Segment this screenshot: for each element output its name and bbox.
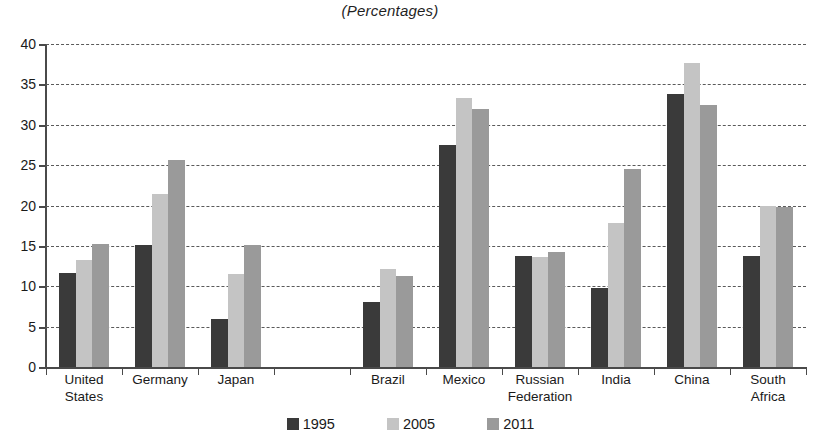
bar [152, 194, 169, 367]
bar [168, 160, 185, 367]
gridline-40 [46, 44, 806, 45]
legend-item[interactable]: 2005 [387, 416, 435, 432]
x-axis-separator [350, 367, 351, 375]
plot-area [46, 44, 806, 367]
legend-item[interactable]: 1995 [287, 416, 335, 432]
legend-swatch-icon [287, 418, 299, 430]
bar [667, 94, 684, 367]
bar [776, 207, 793, 367]
y-tick-label-35: 35 [6, 76, 36, 92]
chart-legend: 199520052011 [0, 416, 821, 432]
bar [532, 257, 549, 367]
bar [380, 269, 397, 367]
y-tick-mark-5 [39, 327, 46, 329]
x-axis-separator [502, 367, 503, 375]
legend-label: 1995 [303, 416, 335, 432]
bar [472, 109, 489, 367]
y-tick-label-30: 30 [6, 117, 36, 133]
y-tick-mark-15 [39, 246, 46, 248]
bar [59, 273, 76, 367]
x-tick-label: Mexico [426, 371, 502, 388]
bar [92, 244, 109, 367]
y-tick-label-10: 10 [6, 278, 36, 294]
bar [684, 63, 701, 367]
legend-label: 2005 [403, 416, 435, 432]
y-tick-mark-40 [39, 44, 46, 46]
chart-title: (Percentages) [0, 2, 780, 19]
x-tick-label: Brazil [350, 371, 426, 388]
y-tick-mark-20 [39, 206, 46, 208]
x-axis-separator [274, 367, 275, 375]
x-axis-separator [122, 367, 123, 375]
y-tick-label-20: 20 [6, 198, 36, 214]
x-axis-separator [806, 367, 807, 375]
x-tick-label: Germany [122, 371, 198, 388]
y-tick-label-5: 5 [6, 319, 36, 335]
y-tick-mark-30 [39, 125, 46, 127]
legend-label: 2011 [503, 416, 534, 432]
x-axis-separator [426, 367, 427, 375]
bar [624, 169, 641, 367]
y-tick-label-15: 15 [6, 238, 36, 254]
x-tick-label: United States [46, 371, 122, 405]
bar [456, 98, 473, 367]
y-tick-label-25: 25 [6, 157, 36, 173]
x-axis-separator [654, 367, 655, 375]
bar [548, 252, 565, 367]
bar [76, 260, 93, 367]
y-tick-mark-35 [39, 84, 46, 86]
bar [591, 288, 608, 367]
y-tick-mark-0 [39, 367, 46, 369]
y-tick-mark-10 [39, 286, 46, 288]
bar [743, 256, 760, 367]
bar [244, 245, 261, 367]
bar-chart: (Percentages) 4035302520151050 United St… [0, 0, 821, 439]
x-axis-separator [730, 367, 731, 375]
y-axis-tick-labels: 4035302520151050 [0, 0, 36, 439]
x-tick-label: India [578, 371, 654, 388]
bar [439, 145, 456, 367]
legend-item[interactable]: 2011 [487, 416, 534, 432]
bar [515, 256, 532, 367]
bar [396, 276, 413, 367]
x-axis-separator [198, 367, 199, 375]
x-axis-separator [578, 367, 579, 375]
legend-swatch-icon [487, 418, 499, 430]
y-tick-label-0: 0 [6, 359, 36, 375]
legend-swatch-icon [387, 418, 399, 430]
x-tick-label: China [654, 371, 730, 388]
x-tick-label: Japan [198, 371, 274, 388]
bar [760, 206, 777, 367]
x-axis-separator [46, 367, 47, 375]
y-tick-mark-25 [39, 165, 46, 167]
bar [135, 245, 152, 367]
bar [363, 302, 380, 367]
bar [211, 319, 228, 367]
x-tick-label: South Africa [730, 371, 806, 405]
bar [608, 223, 625, 367]
y-tick-label-40: 40 [6, 36, 36, 52]
bar [700, 105, 717, 367]
x-tick-label: Russian Federation [502, 371, 578, 405]
x-axis-tick-labels: United StatesGermanyJapanBrazilMexicoRus… [46, 371, 806, 413]
bar [228, 274, 245, 367]
